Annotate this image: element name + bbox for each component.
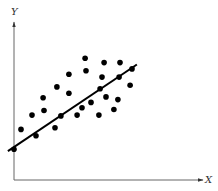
- data-point: [97, 86, 103, 92]
- data-point: [116, 74, 122, 80]
- data-point: [66, 91, 72, 97]
- data-point: [41, 108, 47, 114]
- data-point: [115, 97, 121, 103]
- data-point: [88, 100, 94, 106]
- data-point: [18, 127, 24, 133]
- data-point: [127, 82, 133, 88]
- data-point: [11, 147, 17, 153]
- data-point: [66, 72, 72, 78]
- y-axis-label: Y: [11, 6, 19, 17]
- data-point: [40, 95, 46, 101]
- data-point: [79, 105, 85, 111]
- data-point: [52, 125, 58, 131]
- data-point: [29, 112, 35, 118]
- x-axis-label: X: [204, 174, 213, 185]
- data-point: [129, 66, 135, 72]
- data-point: [58, 113, 64, 119]
- data-point: [83, 68, 89, 74]
- data-point: [99, 74, 105, 80]
- data-point: [117, 60, 123, 66]
- scatter-chart: Y X: [0, 0, 218, 191]
- data-point: [111, 107, 117, 113]
- data-point: [54, 84, 60, 90]
- data-point: [74, 112, 80, 118]
- data-point: [96, 112, 102, 118]
- data-point: [103, 94, 109, 100]
- data-point: [101, 60, 107, 66]
- data-point: [33, 133, 39, 139]
- data-point: [82, 55, 88, 61]
